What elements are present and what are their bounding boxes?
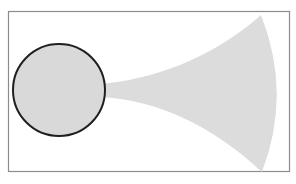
- diagram-graphic: [0, 0, 296, 184]
- diagram-canvas: [0, 0, 296, 184]
- circle-shape: [13, 44, 105, 136]
